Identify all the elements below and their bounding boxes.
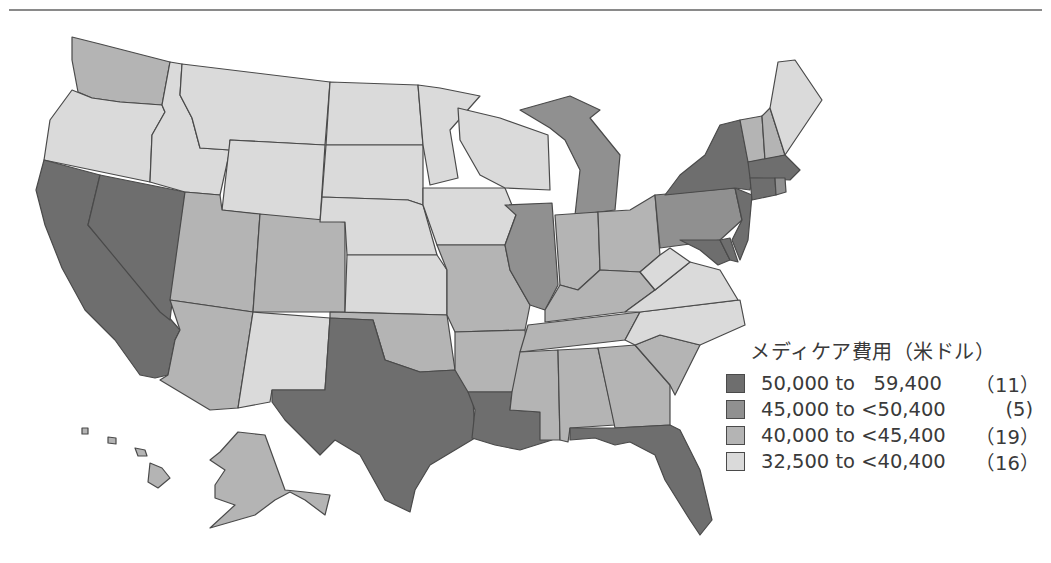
legend-range: 45,000 to <50,400 (761, 398, 975, 421)
state-wyoming (222, 140, 325, 222)
legend-swatch (726, 452, 745, 471)
state-hawaii-maui (135, 448, 147, 456)
state-kansas (345, 255, 447, 315)
legend-range: 50,000 to 59,400 (761, 372, 975, 395)
legend-swatch (726, 374, 745, 393)
state-florida (570, 425, 712, 535)
state-washington (72, 37, 170, 105)
legend-item: 45,000 to <50,400 (5) (726, 396, 1046, 422)
legend-title: メディケア費用（米ドル） (750, 338, 1046, 370)
legend-range: 32,500 to <40,400 (761, 450, 975, 473)
state-hawaii-kauai (82, 428, 88, 434)
legend-item: 32,500 to <40,400 （16） (726, 448, 1046, 474)
state-north-dakota (326, 82, 423, 145)
us-choropleth-map (0, 0, 1051, 563)
legend-item: 50,000 to 59,400 （11） (726, 370, 1046, 396)
state-hawaii-oahu (108, 437, 116, 444)
legend-swatch (726, 400, 745, 419)
state-montana (180, 64, 330, 150)
state-south-dakota (322, 145, 423, 205)
state-arizona (160, 300, 253, 410)
state-hawaii-big (148, 463, 170, 488)
legend-count: （16） (975, 447, 1033, 476)
state-rhode-island (775, 178, 786, 195)
state-iowa (423, 188, 516, 245)
legend-count: （19） (975, 421, 1033, 450)
legend-count: (5) (975, 398, 1033, 421)
state-new-york (665, 120, 752, 195)
state-colorado (253, 214, 345, 312)
legend: メディケア費用（米ドル） 50,000 to 59,400 （11） 45,00… (726, 338, 1046, 474)
legend-range: 40,000 to <45,400 (761, 424, 975, 447)
state-connecticut (750, 178, 776, 200)
legend-count: （11） (975, 369, 1033, 398)
legend-item: 40,000 to <45,400 （19） (726, 422, 1046, 448)
legend-swatch (726, 426, 745, 445)
